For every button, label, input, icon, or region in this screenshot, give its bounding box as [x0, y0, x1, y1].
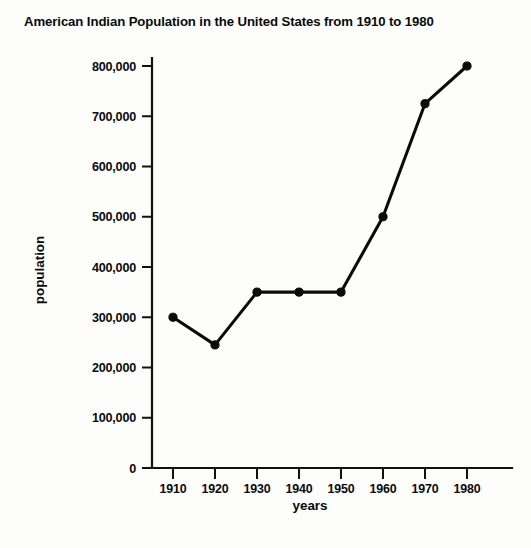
y-axis-tick-label: 500,000	[92, 210, 136, 224]
y-axis-tick-label: 300,000	[92, 311, 136, 325]
x-axis-tick-label: 1930	[244, 482, 271, 496]
data-point-marker	[463, 62, 471, 70]
chart-figure: American Indian Population in the United…	[0, 0, 531, 548]
x-axis-tick-label: 1970	[412, 482, 439, 496]
y-axis-tick-labels: 0100,000200,000300,000400,000500,000600,…	[92, 60, 136, 476]
y-axis-tick-marks	[142, 66, 152, 468]
x-axis-tick-labels: 19101920193019401950196019701980	[160, 482, 481, 496]
data-series-line	[173, 66, 467, 345]
plot-area: 0100,000200,000300,000400,000500,000600,…	[0, 0, 531, 548]
y-axis-tick-label: 200,000	[92, 361, 136, 375]
data-point-marker	[169, 313, 177, 321]
data-point-marker	[253, 288, 261, 296]
x-axis-tick-label: 1940	[286, 482, 313, 496]
y-axis-tick-label: 700,000	[92, 110, 136, 124]
y-axis-tick-label: 600,000	[92, 160, 136, 174]
y-axis-tick-label: 100,000	[92, 411, 136, 425]
data-point-marker	[379, 213, 387, 221]
data-point-marker	[421, 100, 429, 108]
y-axis-title: population	[32, 236, 47, 304]
x-axis-tick-label: 1980	[454, 482, 481, 496]
x-axis-tick-marks	[173, 468, 467, 479]
data-point-marker	[337, 288, 345, 296]
x-axis-title: years	[292, 498, 327, 513]
x-axis-tick-label: 1920	[202, 482, 229, 496]
data-series-points	[169, 62, 471, 349]
data-point-marker	[211, 341, 219, 349]
data-point-marker	[295, 288, 303, 296]
y-axis-tick-label: 800,000	[92, 60, 136, 74]
line-chart-svg: 0100,000200,000300,000400,000500,000600,…	[0, 0, 531, 548]
y-axis-tick-label: 400,000	[92, 261, 136, 275]
x-axis-tick-label: 1960	[370, 482, 397, 496]
y-axis-tick-label: 0	[129, 462, 136, 476]
x-axis-tick-label: 1950	[328, 482, 355, 496]
x-axis-tick-label: 1910	[160, 482, 187, 496]
